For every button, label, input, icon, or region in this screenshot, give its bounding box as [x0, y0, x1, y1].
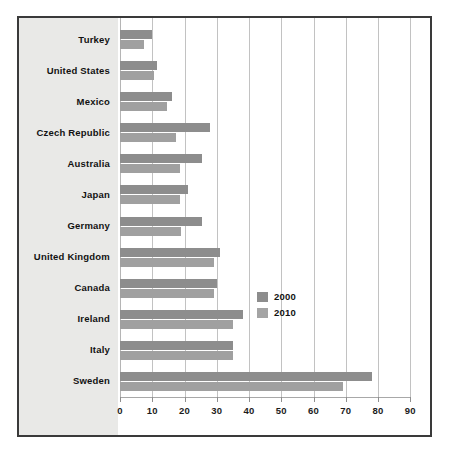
x-tick-label-80: 80	[365, 405, 391, 416]
x-tick-label-70: 70	[333, 405, 359, 416]
bar-sweden-2000	[120, 372, 372, 381]
x-tick-80	[378, 397, 379, 402]
bar-mexico-2010	[120, 102, 167, 111]
category-label-japan: Japan	[82, 189, 110, 200]
category-label-germany: Germany	[67, 220, 110, 231]
x-tick-label-30: 30	[204, 405, 230, 416]
bar-czech-republic-2010	[120, 133, 176, 142]
x-tick-label-10: 10	[139, 405, 165, 416]
bar-mexico-2000	[120, 92, 172, 101]
bar-canada-2010	[120, 289, 214, 298]
category-label-czech-republic: Czech Republic	[36, 127, 110, 138]
legend-swatch-2010	[257, 308, 268, 318]
category-label-united-kingdom: United Kingdom	[34, 251, 110, 262]
legend-item-2010[interactable]: 2010	[257, 306, 323, 319]
bar-czech-republic-2000	[120, 123, 210, 132]
gridline-70	[346, 18, 347, 397]
bar-canada-2000	[120, 279, 217, 288]
legend-swatch-2000	[257, 292, 268, 302]
bar-japan-2010	[120, 195, 180, 204]
x-tick-30	[217, 397, 218, 402]
x-tick-90	[410, 397, 411, 402]
bar-italy-2010	[120, 351, 233, 360]
x-axis-line	[120, 397, 411, 398]
chart-legend: 20002010	[257, 290, 323, 322]
x-tick-0	[120, 397, 121, 402]
bar-ireland-2010	[120, 320, 233, 329]
x-tick-label-60: 60	[301, 405, 327, 416]
x-tick-label-90: 90	[397, 405, 423, 416]
legend-item-2000[interactable]: 2000	[257, 290, 323, 303]
category-label-united-states: United States	[47, 65, 110, 76]
bar-australia-2010	[120, 164, 180, 173]
bar-australia-2000	[120, 154, 202, 163]
gridline-60	[314, 18, 315, 397]
category-label-sweden: Sweden	[73, 375, 110, 386]
bar-sweden-2010	[120, 382, 343, 391]
gridline-80	[378, 18, 379, 397]
category-label-mexico: Mexico	[77, 96, 110, 107]
gridline-40	[249, 18, 250, 397]
category-label-australia: Australia	[68, 158, 110, 169]
x-tick-50	[281, 397, 282, 402]
bar-united-states-2010	[120, 71, 154, 80]
bar-united-states-2000	[120, 61, 157, 70]
x-tick-label-0: 0	[107, 405, 133, 416]
plot-area: 0102030405060708090	[118, 18, 430, 435]
bar-ireland-2000	[120, 310, 243, 319]
legend-label-2000: 2000	[274, 291, 296, 302]
bar-turkey-2000	[120, 30, 152, 39]
bar-germany-2010	[120, 227, 181, 236]
bar-united-kingdom-2010	[120, 258, 214, 267]
category-label-canada: Canada	[74, 282, 110, 293]
bar-italy-2000	[120, 341, 233, 350]
x-tick-20	[185, 397, 186, 402]
x-tick-60	[314, 397, 315, 402]
category-label-turkey: Turkey	[78, 34, 110, 45]
x-tick-label-50: 50	[268, 405, 294, 416]
bar-japan-2000	[120, 185, 188, 194]
bar-germany-2000	[120, 217, 202, 226]
category-label-italy: Italy	[90, 344, 110, 355]
x-tick-70	[346, 397, 347, 402]
gridline-90	[410, 18, 411, 397]
x-tick-label-40: 40	[236, 405, 262, 416]
plot-inner: 0102030405060708090	[118, 18, 430, 435]
x-tick-label-20: 20	[172, 405, 198, 416]
bar-turkey-2010	[120, 40, 144, 49]
category-label-ireland: Ireland	[77, 313, 110, 324]
category-label-panel: TurkeyUnited StatesMexicoCzech RepublicA…	[19, 18, 118, 435]
x-tick-40	[249, 397, 250, 402]
chart-frame: TurkeyUnited StatesMexicoCzech RepublicA…	[17, 16, 432, 437]
legend-label-2010: 2010	[274, 307, 296, 318]
x-tick-10	[152, 397, 153, 402]
gridline-50	[281, 18, 282, 397]
bar-united-kingdom-2000	[120, 248, 220, 257]
